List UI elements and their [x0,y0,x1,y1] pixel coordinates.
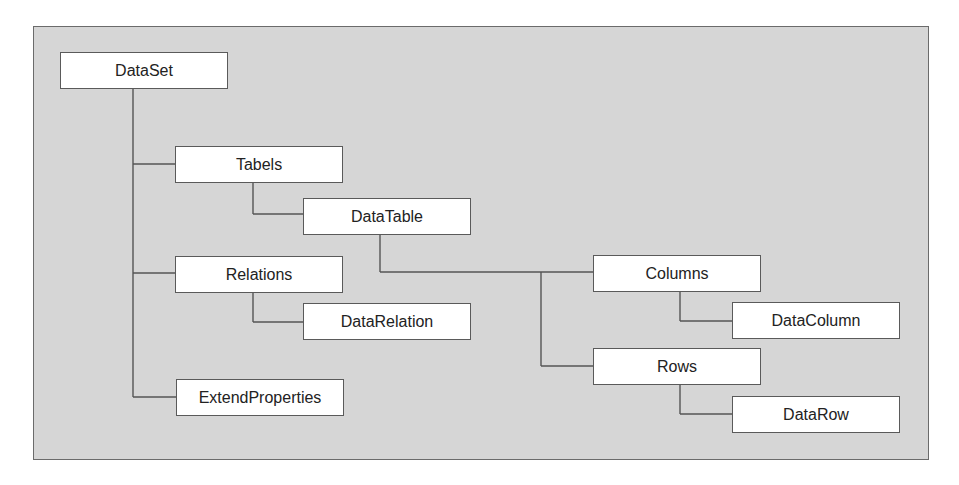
node-label: DataRow [783,406,849,424]
node-label: Columns [645,265,708,283]
node-label: ExtendProperties [199,389,322,407]
node-rows: Rows [593,348,761,385]
node-datacolumn: DataColumn [732,302,900,339]
node-tables: Tabels [175,146,343,183]
node-label: DataTable [351,208,423,226]
node-label: DataSet [115,62,173,80]
node-dataset: DataSet [60,52,228,89]
node-extendproperties: ExtendProperties [176,379,344,416]
node-datatable: DataTable [303,198,471,235]
node-datarelation: DataRelation [303,303,471,340]
node-relations: Relations [175,256,343,293]
node-label: Relations [226,266,293,284]
node-columns: Columns [593,255,761,292]
node-label: DataRelation [341,313,434,331]
node-datarow: DataRow [732,396,900,433]
node-label: Rows [657,358,697,376]
node-label: Tabels [236,156,282,174]
diagram-panel [33,26,929,460]
node-label: DataColumn [772,312,861,330]
